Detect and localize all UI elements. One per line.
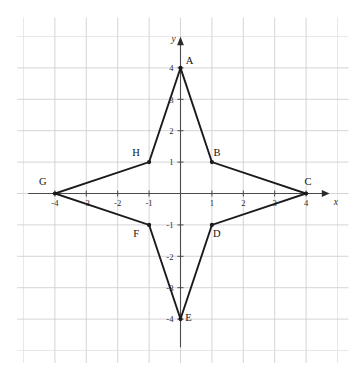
y-axis-tick-label: 2 [169, 126, 173, 136]
axis-layer [28, 37, 329, 348]
vertex-label-c: C [305, 176, 312, 187]
y-axis-arrowhead [177, 37, 184, 46]
y-axis-name: y [170, 34, 176, 44]
vertex-dot-a [178, 66, 182, 70]
vertex-dot-d [210, 223, 214, 227]
vertex-label-a: A [186, 55, 194, 66]
vertex-dot-g [53, 191, 57, 195]
x-axis-tick-label: -4 [51, 198, 59, 208]
y-axis-tick-label: -4 [166, 314, 174, 324]
y-axis-tick-label: 4 [169, 63, 174, 73]
x-axis-tick-label: -1 [146, 198, 153, 208]
x-axis-name: x [333, 197, 339, 207]
x-axis-arrowhead [322, 190, 330, 197]
vertex-dot-b [210, 160, 214, 164]
y-axis-tick-label: 1 [169, 157, 173, 167]
vertex-label-e: E [185, 312, 191, 323]
vertex-dot-h [147, 160, 151, 164]
y-axis-tick-label: -2 [166, 252, 173, 262]
vertex-label-g: G [39, 176, 47, 187]
vertex-label-f: F [133, 228, 139, 239]
y-axis-tick-label: -1 [166, 220, 173, 230]
x-axis-tick-label: 2 [241, 198, 245, 208]
axis-name-layer: xy [170, 34, 338, 206]
vertex-label-b: B [213, 147, 220, 158]
point-label-layer: ABCDEFGH [39, 55, 312, 323]
vertex-dot-f [147, 223, 151, 227]
vertex-label-d: D [213, 228, 221, 239]
coordinate-plane-figure: -4-3-2-112344321-1-2-3-4 ABCDEFGH xy [0, 0, 361, 376]
x-axis-tick-label: 4 [304, 198, 309, 208]
vertex-label-h: H [132, 147, 140, 158]
vertex-dot-e [178, 317, 182, 321]
vertex-dot-c [304, 191, 308, 195]
coordinate-plane-svg: -4-3-2-112344321-1-2-3-4 ABCDEFGH xy [0, 0, 361, 376]
x-axis-tick-label: -2 [114, 198, 121, 208]
x-axis-tick-label: 1 [210, 198, 214, 208]
